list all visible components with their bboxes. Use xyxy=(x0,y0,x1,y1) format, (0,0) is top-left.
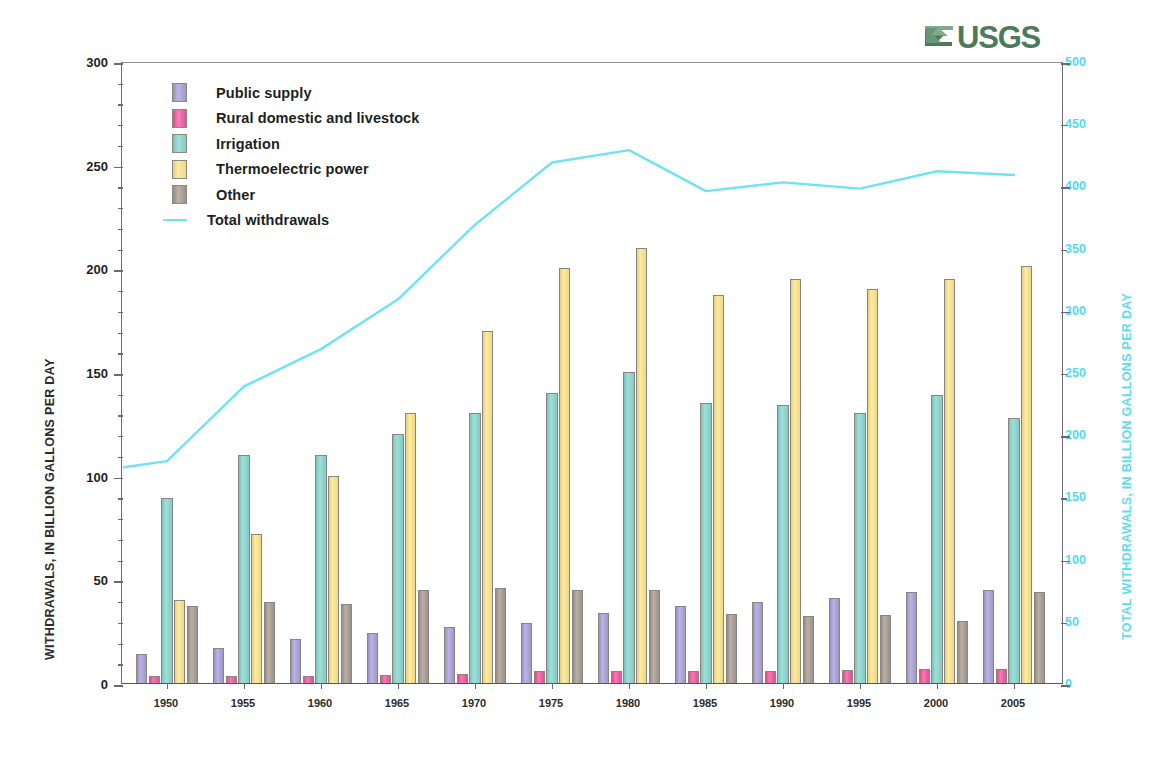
legend-item-label: Total withdrawals xyxy=(207,212,329,228)
legend-item-label: Rural domestic and livestock xyxy=(216,110,419,126)
left-axis-tick-labels: 050100150200250300 xyxy=(62,0,108,758)
left-axis-tick-label: 300 xyxy=(86,55,108,70)
right-axis-tick-labels: 050100150200250300350400450500 xyxy=(1065,0,1113,758)
legend-item-label: Irrigation xyxy=(216,136,280,152)
right-axis-tick-label: 0 xyxy=(1065,677,1072,691)
x-axis-tick-label: 1980 xyxy=(616,697,640,709)
left-axis-title: WITHDRAWALS, IN BILLION GALLONS PER DAY xyxy=(43,358,57,660)
legend-item-label: Thermoelectric power xyxy=(216,161,369,177)
left-axis-tick-label: 150 xyxy=(86,366,108,381)
legend-swatch-thermoelectric xyxy=(172,160,187,179)
x-axis-tick-label: 1970 xyxy=(462,697,486,709)
usgs-wave-icon xyxy=(924,24,954,50)
x-axis-tick-labels: 1950195519601965197019751980198519901995… xyxy=(0,697,1158,721)
right-axis-tick-label: 500 xyxy=(1065,55,1086,69)
right-axis-tick-label: 450 xyxy=(1065,117,1086,131)
x-axis-tick-label: 1995 xyxy=(847,697,871,709)
right-axis-major-tick xyxy=(1061,685,1070,687)
left-axis-tick-label: 200 xyxy=(86,262,108,277)
left-axis-tick-label: 250 xyxy=(86,158,108,173)
usgs-wordmark: USGS xyxy=(957,22,1040,53)
legend-item-rural-domestic-and-livestock[interactable]: Rural domestic and livestock xyxy=(172,106,572,132)
legend-item-label: Public supply xyxy=(216,85,312,101)
chart-legend: Public supplyRural domestic and livestoc… xyxy=(172,80,572,233)
right-axis-tick-label: 250 xyxy=(1065,366,1086,380)
x-axis-tick-label: 2005 xyxy=(1001,697,1025,709)
legend-swatch-public-supply xyxy=(172,83,187,102)
x-axis-tick-label: 1960 xyxy=(308,697,332,709)
legend-item-label: Other xyxy=(216,187,255,203)
total-withdrawals-line-leadin xyxy=(124,461,167,467)
x-axis-tick-label: 1950 xyxy=(154,697,178,709)
legend-item-irrigation[interactable]: Irrigation xyxy=(172,131,572,157)
legend-item-public-supply[interactable]: Public supply xyxy=(172,80,572,106)
legend-item-total-withdrawals[interactable]: Total withdrawals xyxy=(172,208,572,234)
left-axis-major-tick xyxy=(114,685,123,687)
left-axis-tick-label: 100 xyxy=(86,469,108,484)
legend-swatch-rural-domestic xyxy=(172,109,187,128)
x-axis-tick-label: 1965 xyxy=(385,697,409,709)
legend-swatch-other xyxy=(172,185,187,204)
legend-item-thermoelectric-power[interactable]: Thermoelectric power xyxy=(172,157,572,183)
x-axis-tick-label: 1975 xyxy=(539,697,563,709)
legend-line-total-withdrawals xyxy=(172,219,187,221)
left-axis-tick-label: 50 xyxy=(94,573,108,588)
right-axis-tick-label: 50 xyxy=(1065,615,1079,629)
right-axis-tick-label: 200 xyxy=(1065,428,1086,442)
x-axis-tick-label: 1985 xyxy=(693,697,717,709)
right-axis-tick-label: 300 xyxy=(1065,304,1086,318)
legend-swatch-irrigation xyxy=(172,134,187,153)
right-axis-title: TOTAL WITHDRAWALS, IN BILLION GALLONS PE… xyxy=(1120,293,1134,640)
right-axis-tick-label: 150 xyxy=(1065,490,1086,504)
x-axis-tick-label: 2000 xyxy=(924,697,948,709)
legend-item-other[interactable]: Other xyxy=(172,182,572,208)
right-axis-tick-label: 400 xyxy=(1065,179,1086,193)
left-axis-tick-label: 0 xyxy=(101,677,108,692)
x-axis-tick-label: 1955 xyxy=(231,697,255,709)
usgs-logo: USGS xyxy=(924,20,1054,54)
chart-figure: USGS WITHDRAWALS, IN BILLION GALLONS PER… xyxy=(0,0,1158,758)
right-axis-tick-label: 100 xyxy=(1065,553,1086,567)
legend-line-stroke xyxy=(163,219,187,221)
x-axis-tick-label: 1990 xyxy=(770,697,794,709)
right-axis-tick-label: 350 xyxy=(1065,242,1086,256)
